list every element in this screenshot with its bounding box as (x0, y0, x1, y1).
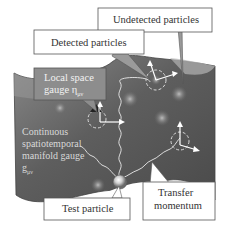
label-continuous-line2: spatiotemporal (22, 138, 81, 150)
manifold-diagram (0, 0, 230, 229)
label-local-space-line1: Local space (44, 72, 94, 84)
label-transfer-line2: momentum (154, 200, 202, 212)
local-space-subscript: μν (77, 91, 83, 97)
label-transfer-line1: Transfer (158, 187, 193, 199)
local-space-symbol: gauge η (44, 84, 77, 95)
label-continuous-line1: Continuous (22, 126, 68, 138)
test-particle (113, 175, 127, 189)
label-continuous-line4: gμν (22, 162, 33, 178)
label-continuous-line3: manifold gauge (22, 150, 84, 162)
label-test-particle: Test particle (62, 203, 113, 215)
label-detected-particles: Detected particles (51, 37, 127, 49)
label-local-space-line2: gauge ημν (44, 84, 83, 100)
label-undetected-particles: Undetected particles (113, 14, 199, 26)
manifold-gauge-subscript: μν (27, 169, 33, 175)
